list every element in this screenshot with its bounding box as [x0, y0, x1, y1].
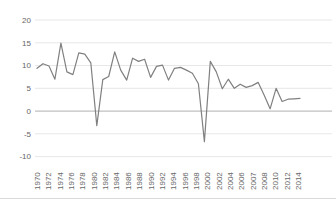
x-tick-label: 1992: [158, 172, 167, 190]
x-tick-label: 2002: [215, 172, 224, 190]
x-tick-label: 1976: [67, 172, 76, 190]
y-tick-label: 10: [22, 61, 31, 70]
x-tick-label: 1986: [124, 172, 133, 190]
x-tick-label: 1980: [90, 172, 99, 190]
x-tick-label: 1984: [112, 172, 121, 190]
data-series-line: [37, 43, 300, 141]
x-tick-label: 2008: [260, 172, 269, 190]
x-tick-label: 2014: [294, 172, 303, 190]
x-tick-label: 2000: [203, 172, 212, 190]
x-tick-label: 1996: [181, 172, 190, 190]
y-tick-label: 0: [27, 107, 32, 116]
y-tick-label: -5: [24, 130, 32, 139]
x-tick-label: 1988: [135, 172, 144, 190]
x-tick-label: 1972: [44, 172, 53, 190]
x-tick-label: 2007: [249, 172, 258, 190]
x-tick-label: 2004: [226, 172, 235, 190]
y-tick-label: -10: [19, 152, 31, 161]
x-tick-label: 1978: [78, 172, 87, 190]
x-tick-label: 1970: [33, 172, 42, 190]
y-tick-label: 20: [22, 16, 31, 25]
x-tick-label: 1990: [147, 172, 156, 190]
y-tick-label: 5: [27, 84, 32, 93]
line-chart-container: 20151050-5-10197019721974197619781980198…: [0, 0, 336, 206]
x-tick-label: 2010: [271, 172, 280, 190]
x-tick-label: 2006: [237, 172, 246, 190]
bottom-divider: [0, 198, 336, 199]
y-tick-label: 15: [22, 39, 31, 48]
x-tick-label: 1982: [101, 172, 110, 190]
x-tick-label: 2012: [283, 172, 292, 190]
x-tick-label: 1974: [56, 172, 65, 190]
line-chart: 20151050-5-10197019721974197619781980198…: [0, 0, 336, 206]
x-tick-label: 1998: [192, 172, 201, 190]
x-tick-label: 1994: [169, 172, 178, 190]
